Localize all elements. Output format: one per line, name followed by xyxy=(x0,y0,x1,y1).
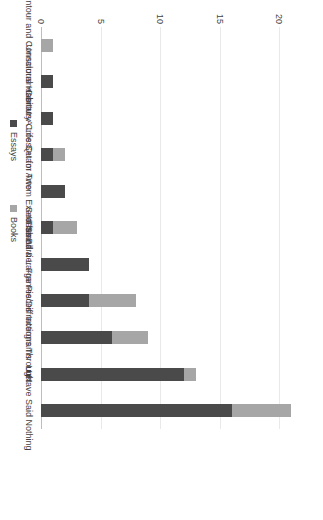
legend-item[interactable]: Essays xyxy=(9,120,19,161)
stacked-bar[interactable] xyxy=(41,294,136,307)
bar-segment-essays xyxy=(41,75,53,88)
legend-swatch-icon xyxy=(11,205,18,212)
chart-legend: EssaysBooks xyxy=(5,120,23,420)
stacked-bar[interactable] xyxy=(41,404,291,417)
legend-swatch-icon xyxy=(11,120,18,127)
legend-item[interactable]: Books xyxy=(9,205,19,242)
value-tick-label: 15 xyxy=(215,0,225,24)
stacked-bar[interactable] xyxy=(41,185,65,198)
bar-slot xyxy=(41,246,303,283)
bar-slot xyxy=(41,27,303,64)
stacked-bar[interactable] xyxy=(41,258,89,271)
bar-slot xyxy=(41,100,303,137)
value-tick-label: 20 xyxy=(274,0,284,24)
bar-segment-books xyxy=(53,221,77,234)
legend-label: Books xyxy=(9,217,19,242)
value-tick-label: 10 xyxy=(155,0,165,24)
stacked-bar[interactable] xyxy=(41,331,148,344)
value-tick-label: 0 xyxy=(36,0,46,24)
bar-segment-books xyxy=(232,404,292,417)
bar-slot xyxy=(41,64,303,101)
bar-segment-essays xyxy=(41,112,53,125)
stacked-bar[interactable] xyxy=(41,112,53,125)
bar-segment-essays xyxy=(41,258,89,271)
bar-segment-essays xyxy=(41,148,53,161)
bar-segment-books xyxy=(112,331,148,344)
bar-slot xyxy=(41,137,303,174)
bar-series-group xyxy=(41,27,303,429)
bar-slot xyxy=(41,210,303,247)
bar-segment-books xyxy=(53,148,65,161)
stacked-bar[interactable] xyxy=(41,368,196,381)
bar-segment-essays xyxy=(41,294,89,307)
bar-segment-essays xyxy=(41,331,112,344)
bar-segment-books xyxy=(41,39,53,52)
bar-segment-essays xyxy=(41,404,232,417)
stacked-bar[interactable] xyxy=(41,39,53,52)
bar-segment-essays xyxy=(41,185,65,198)
bar-slot xyxy=(41,173,303,210)
bar-segment-essays xyxy=(41,221,53,234)
rotated-figure-wrapper: 05101520 Contour and ConsciousnessUnnatu… xyxy=(0,0,323,520)
stacked-bar[interactable] xyxy=(41,148,65,161)
stacked-bar[interactable] xyxy=(41,75,53,88)
chart-figure: 05101520 Contour and ConsciousnessUnnatu… xyxy=(0,0,323,520)
category-tick-label: Intergrams xyxy=(24,316,34,359)
bar-slot xyxy=(41,356,303,393)
stacked-bar[interactable] xyxy=(41,221,77,234)
bar-segment-books xyxy=(184,368,196,381)
bar-slot xyxy=(41,319,303,356)
bar-slot xyxy=(41,283,303,320)
bar-segment-essays xyxy=(41,368,184,381)
bar-segment-books xyxy=(89,294,137,307)
value-tick-label: 5 xyxy=(96,0,106,24)
bar-slot xyxy=(41,392,303,429)
category-tick-label: I Have Said Nothing xyxy=(24,371,34,451)
plot-area xyxy=(41,27,303,429)
legend-label: Essays xyxy=(9,132,19,161)
